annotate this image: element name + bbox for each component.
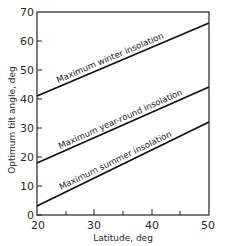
svg-text:30: 30 xyxy=(87,219,101,232)
y-axis-ticks xyxy=(37,41,42,215)
svg-text:40: 40 xyxy=(145,219,159,232)
line-summer xyxy=(37,122,209,206)
svg-text:40: 40 xyxy=(20,93,34,106)
svg-text:20: 20 xyxy=(31,219,45,232)
x-axis-label: Latitude, deg xyxy=(93,233,153,243)
chart: 0 10 20 30 40 50 60 70 20 30 40 50 Latit… xyxy=(0,0,225,246)
svg-text:50: 50 xyxy=(201,219,215,232)
label-winter: Maximum winter insolation xyxy=(55,31,165,85)
line-winter xyxy=(37,23,209,96)
x-axis-ticks xyxy=(66,209,180,215)
y-tick-labels: 0 10 20 30 40 50 60 70 xyxy=(20,6,34,222)
svg-text:30: 30 xyxy=(20,122,34,135)
svg-text:20: 20 xyxy=(20,151,34,164)
svg-text:50: 50 xyxy=(20,64,34,77)
y-axis-label: Optimum tilt angle, deg xyxy=(7,66,17,174)
svg-text:60: 60 xyxy=(20,35,34,48)
svg-text:10: 10 xyxy=(20,180,34,193)
svg-text:70: 70 xyxy=(20,6,34,19)
x-tick-labels: 20 30 40 50 xyxy=(31,219,215,232)
